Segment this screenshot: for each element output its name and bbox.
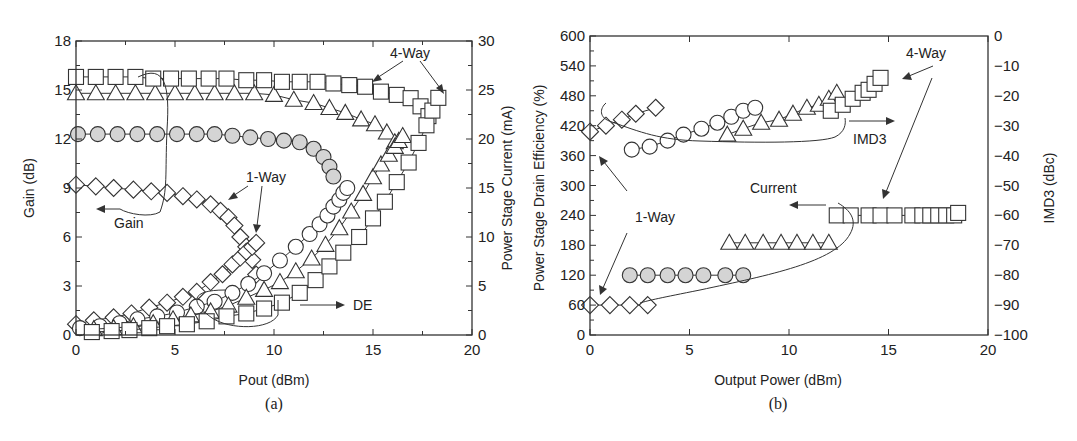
y-right-tick-label: 15	[478, 179, 495, 196]
square-marker	[274, 295, 289, 310]
circle-marker	[272, 253, 287, 268]
square-marker	[951, 205, 966, 220]
series-diamond	[68, 234, 265, 332]
chart-b-ylabel-right: IMD3 (dBc)	[1041, 153, 1057, 224]
circle-marker	[241, 277, 256, 292]
circle-marker	[710, 115, 725, 130]
y-right-tick-label: −40	[994, 147, 1019, 164]
figure: 051015200369121518051015202530 4-Way 1-W…	[0, 0, 1077, 441]
y-left-tick-label: 300	[560, 177, 585, 194]
annotation-b-current: Current	[750, 180, 797, 196]
chart-a-ylabel-left: Gain (dB)	[21, 158, 37, 218]
y-left-tick-label: 9	[63, 179, 71, 196]
square-marker	[389, 175, 404, 190]
triangle-marker	[87, 85, 104, 100]
triangle-marker	[127, 85, 144, 100]
series-triangle	[721, 234, 838, 249]
y-right-tick-label: 25	[478, 81, 495, 98]
triangle-marker	[167, 85, 184, 100]
x-tick-label: 0	[72, 341, 80, 358]
x-tick-label: 10	[781, 341, 798, 358]
triangle-marker	[271, 274, 288, 289]
x-tick-label: 0	[586, 341, 594, 358]
triangle-marker	[337, 104, 354, 119]
filled-circle-marker	[718, 268, 733, 283]
annotation-b-imd3: IMD3	[853, 131, 887, 147]
diamond-marker	[143, 183, 160, 200]
y-left-tick-label: 15	[54, 81, 71, 98]
y-right-tick-label: 20	[478, 130, 495, 147]
square-marker	[219, 309, 234, 324]
square-marker	[873, 208, 888, 223]
square-marker	[419, 118, 434, 133]
x-tick-label: 10	[266, 341, 283, 358]
y-left-tick-label: 420	[560, 117, 585, 134]
series-circle-filled	[622, 268, 750, 283]
square-marker	[373, 84, 388, 99]
square-marker	[239, 306, 254, 321]
filled-circle-marker	[261, 132, 276, 147]
circle-marker	[257, 266, 272, 281]
square-marker	[88, 69, 103, 84]
chart-b-caption: (b)	[769, 395, 788, 413]
square-marker	[352, 230, 367, 245]
diamond-marker	[87, 178, 104, 195]
square-marker	[239, 73, 254, 88]
circle-marker	[288, 239, 303, 254]
triangle-marker	[343, 203, 360, 218]
chart-b-ylabel-left: Power Stage Drain Efficiency (%)	[531, 85, 547, 292]
y-right-tick-label: −70	[994, 236, 1019, 253]
square-marker	[358, 79, 373, 94]
y-left-tick-label: 0	[63, 326, 71, 343]
y-right-tick-label: −20	[994, 87, 1019, 104]
filled-circle-marker	[660, 268, 675, 283]
chart-a-xlabel: Pout (dBm)	[239, 372, 310, 388]
y-left-tick-label: 60	[568, 296, 585, 313]
square-marker	[843, 208, 858, 223]
y-left-tick-label: 0	[577, 326, 585, 343]
square-marker	[160, 319, 175, 334]
y-left-tick-label: 480	[560, 87, 585, 104]
triangle-marker	[353, 111, 370, 126]
triangle-marker	[820, 234, 837, 249]
square-marker	[873, 70, 888, 85]
annotation-b-1way: 1-Way	[635, 209, 675, 225]
annotation-a-gain: Gain	[114, 215, 144, 231]
triangle-marker	[737, 234, 754, 249]
triangle-marker	[366, 116, 383, 131]
square-marker	[887, 208, 902, 223]
square-marker	[336, 245, 351, 260]
filled-circle-marker	[225, 128, 240, 143]
triangle-marker	[331, 220, 348, 235]
x-tick-label: 20	[464, 341, 481, 358]
y-left-tick-label: 3	[63, 277, 71, 294]
triangle-marker	[287, 263, 304, 278]
square-marker	[199, 314, 214, 329]
square-marker	[164, 71, 179, 86]
chart-a-ylabel-right: Power Stage Current (mA)	[499, 106, 515, 271]
y-left-tick-label: 6	[63, 228, 71, 245]
filled-circle-marker	[207, 127, 222, 142]
y-left-tick-label: 600	[560, 27, 585, 44]
triangle-marker	[147, 85, 164, 100]
diamond-marker	[647, 99, 664, 116]
filled-circle-marker	[678, 268, 693, 283]
diamond-marker	[621, 297, 638, 314]
square-marker	[257, 73, 272, 88]
square-marker	[292, 74, 307, 89]
circle-marker	[748, 100, 763, 115]
square-marker	[401, 155, 416, 170]
annotation-b-4way: 4-Way	[906, 45, 946, 61]
filled-circle-marker	[640, 268, 655, 283]
circle-marker	[340, 181, 355, 196]
y-left-tick-label: 18	[54, 32, 71, 49]
square-marker	[108, 69, 123, 84]
series-circle-filled	[70, 127, 340, 184]
circle-marker	[642, 139, 657, 154]
square-marker	[179, 317, 194, 332]
triangle-marker	[735, 120, 752, 135]
triangle-marker	[355, 185, 372, 200]
y-right-tick-label: 5	[478, 277, 486, 294]
filled-circle-marker	[110, 127, 125, 142]
triangle-marker	[107, 85, 124, 100]
